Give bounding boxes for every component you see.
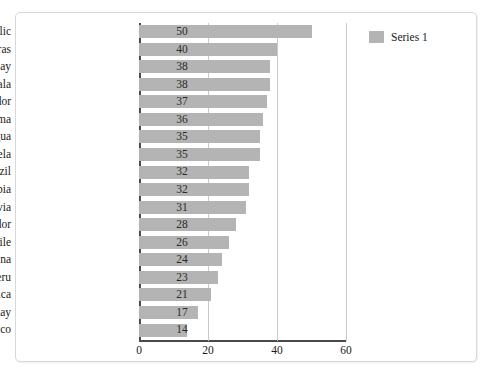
plot-area: 504038383736353532323128262423211714 — [139, 23, 346, 341]
bar-value-label: 38 — [161, 59, 203, 73]
category-label: Bolivia — [0, 200, 11, 214]
category-label: Uruguay — [0, 305, 11, 319]
bar-value-label: 38 — [161, 77, 203, 91]
bar — [139, 60, 270, 73]
bar-value-label: 28 — [161, 217, 203, 231]
bar-row: 38 — [139, 58, 346, 76]
x-tick-label-60: 60 — [326, 344, 366, 356]
bar-value-label: 40 — [161, 42, 203, 56]
bar-row: 40 — [139, 41, 346, 59]
bar-value-label: 24 — [161, 252, 203, 266]
bar-row: 38 — [139, 76, 346, 94]
bar-row: 14 — [139, 321, 346, 339]
chart-frame: Dominican RepublicHondurasParaguayGuatem… — [15, 12, 477, 362]
x-axis-line — [139, 340, 346, 342]
category-label: Nicaragua — [0, 129, 11, 143]
bar-value-label: 37 — [161, 94, 203, 108]
bar-row: 28 — [139, 216, 346, 234]
bar-row: 21 — [139, 286, 346, 304]
category-label: Dominican Republic — [0, 24, 11, 38]
category-label: Paraguay — [0, 59, 11, 73]
gridline-60 — [346, 23, 347, 341]
bar-row: 26 — [139, 234, 346, 252]
bar-value-label: 17 — [161, 305, 203, 319]
bar-row: 23 — [139, 269, 346, 287]
x-tick-label-0: 0 — [119, 344, 159, 356]
bar-value-label: 36 — [161, 112, 203, 126]
bar-row: 50 — [139, 23, 346, 41]
bar-value-label: 35 — [161, 147, 203, 161]
bar-row: 24 — [139, 251, 346, 269]
bar — [139, 78, 270, 91]
category-label: Argentina — [0, 252, 11, 266]
category-label: Panama — [0, 112, 11, 126]
bar — [139, 43, 277, 56]
bar-row: 35 — [139, 146, 346, 164]
bar-value-label: 14 — [161, 322, 203, 336]
bar-row: 31 — [139, 199, 346, 217]
bar-row: 37 — [139, 93, 346, 111]
category-label: Brazil — [0, 164, 11, 178]
bar-value-label: 23 — [161, 270, 203, 284]
bar-value-label: 32 — [161, 164, 203, 178]
category-label: Venezuela — [0, 147, 11, 161]
legend-swatch-series-1 — [369, 31, 384, 43]
x-tick-label-40: 40 — [257, 344, 297, 356]
bar-row: 32 — [139, 163, 346, 181]
bar-value-label: 21 — [161, 287, 203, 301]
legend-label-series-1: Series 1 — [391, 31, 428, 43]
bar-row: 32 — [139, 181, 346, 199]
bar-value-label: 35 — [161, 129, 203, 143]
category-label: Costa Rica — [0, 287, 11, 301]
category-label: Chile — [0, 235, 11, 249]
bar-value-label: 50 — [161, 24, 203, 38]
category-label: El Salvador — [0, 217, 11, 231]
bar-value-label: 32 — [161, 182, 203, 196]
bar-row: 35 — [139, 128, 346, 146]
category-label: Peru — [0, 270, 11, 284]
x-tick-label-20: 20 — [188, 344, 228, 356]
category-label: Mexico — [0, 322, 11, 336]
bar-value-label: 31 — [161, 200, 203, 214]
bar-row: 17 — [139, 304, 346, 322]
category-axis-labels: Dominican RepublicHondurasParaguayGuatem… — [0, 23, 11, 341]
category-label: Guatemala — [0, 77, 11, 91]
category-label: Honduras — [0, 42, 11, 56]
x-axis-tick-labels: 0204060 — [139, 344, 346, 360]
category-label: Colombia — [0, 182, 11, 196]
legend: Series 1 — [369, 31, 428, 43]
bar-value-label: 26 — [161, 235, 203, 249]
category-label: Ecuador — [0, 94, 11, 108]
bar-row: 36 — [139, 111, 346, 129]
